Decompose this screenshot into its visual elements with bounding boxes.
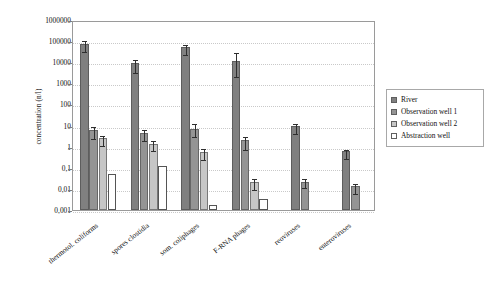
y-axis-tick-mark [68,211,72,212]
error-bar-cap-lower [100,146,105,147]
error-bar-line [94,127,95,140]
error-bar-line [195,124,196,137]
error-bar-cap-upper [234,53,239,54]
error-bar-cap-upper [192,124,197,125]
gridline [73,212,374,213]
error-bar-cap-lower [183,55,188,56]
legend-swatch-icon [391,121,397,127]
legend-item-label: Observation well 1 [401,108,457,116]
error-bar-cap-lower [142,141,147,142]
error-bar-cap-lower [252,190,257,191]
error-bar-cap-upper [183,45,188,46]
y-axis-tick-label: 0,1 [11,165,71,173]
error-bar-cap-lower [243,150,248,151]
bar[interactable] [209,205,218,210]
legend-item[interactable]: Abstraction well [391,130,480,142]
error-bar-cap-lower [192,137,197,138]
bar[interactable] [149,144,158,210]
y-axis-tick-label: 0,01 [11,186,71,194]
error-bar-line [355,184,356,194]
legend-swatch-icon [391,109,397,115]
bar-group [225,22,276,210]
error-bar-cap-upper [252,179,257,180]
bar[interactable] [158,166,167,210]
error-bar-line [85,41,86,51]
error-bar-cap-lower [293,134,298,135]
y-axis-tick-label: 100000 [11,38,71,46]
legend-swatch-icon [391,133,397,139]
bar-group [275,22,326,210]
error-bar-cap-upper [91,127,96,128]
x-axis-category-label: thermotol. coliforms [0,221,100,303]
error-bar-cap-upper [344,150,349,151]
bar[interactable] [131,63,140,210]
error-bar-line [135,60,136,73]
bar[interactable] [190,129,199,210]
error-bar-cap-upper [302,179,307,180]
legend-item-label: Observation well 2 [401,120,457,128]
error-bar-line [236,53,237,77]
x-axis-category-label: spores clostidia [0,221,151,303]
error-bar-cap-upper [243,137,248,138]
error-bar-line [204,149,205,159]
error-bar-cap-upper [100,136,105,137]
error-bar-cap-lower [353,194,358,195]
bar[interactable] [99,138,108,210]
error-bar-cap-lower [302,188,307,189]
error-bar-cap-lower [91,139,96,140]
error-bar-cap-upper [151,141,156,142]
legend-item[interactable]: River [391,94,480,106]
bar[interactable] [108,174,117,210]
y-axis-tick-label: 10 [11,123,71,131]
y-axis-tick-label: 1 [11,144,71,152]
legend-item-label: Abstraction well [401,132,450,140]
legend-item-label: River [401,96,417,104]
error-bar-line [144,130,145,141]
bar-group [174,22,225,210]
bar[interactable] [342,151,351,210]
bar-group [124,22,175,210]
bar[interactable] [232,61,241,210]
y-axis-tick-label: 1000 [11,80,71,88]
error-bar-cap-lower [151,151,156,152]
error-bar-cap-upper [353,184,358,185]
error-bar-line [186,45,187,55]
y-axis-tick-label: 1000000 [11,17,71,25]
error-bar-cap-upper [201,149,206,150]
bar[interactable] [80,44,89,210]
error-bar-cap-lower [82,52,87,53]
bar-group [326,22,377,210]
y-axis-tick-label: 0,001 [11,207,71,215]
bar[interactable] [89,130,98,210]
legend-item[interactable]: Observation well 2 [391,118,480,130]
error-bar-line [346,150,347,159]
legend-item[interactable]: Observation well 1 [391,106,480,118]
legend-swatch-icon [391,97,397,103]
error-bar-cap-upper [293,124,298,125]
bar[interactable] [140,133,149,210]
bar[interactable] [291,126,300,210]
error-bar-line [103,136,104,147]
error-bar-cap-lower [201,160,206,161]
y-axis-tick-label: 10000 [11,59,71,67]
y-axis-tick-label: 100 [11,101,71,109]
error-bar-line [153,141,154,151]
error-bar-cap-lower [344,159,349,160]
error-bar-cap-upper [142,130,147,131]
error-bar-cap-upper [82,41,87,42]
error-bar-line [296,124,297,134]
bar[interactable] [241,140,250,210]
error-bar-cap-lower [234,77,239,78]
error-bar-cap-upper [133,60,138,61]
bar-group [73,22,124,210]
bar[interactable] [200,152,209,210]
bar[interactable] [181,47,190,210]
error-bar-cap-lower [133,73,138,74]
bar[interactable] [259,199,268,210]
y-axis-title: concentration (n/l) [34,57,43,177]
error-bar-line [245,137,246,150]
error-bar-line [305,179,306,188]
chart-container: concentration (n/l) 10000001000001000010… [0,0,490,303]
error-bar-line [254,179,255,190]
plot-area [72,21,375,211]
